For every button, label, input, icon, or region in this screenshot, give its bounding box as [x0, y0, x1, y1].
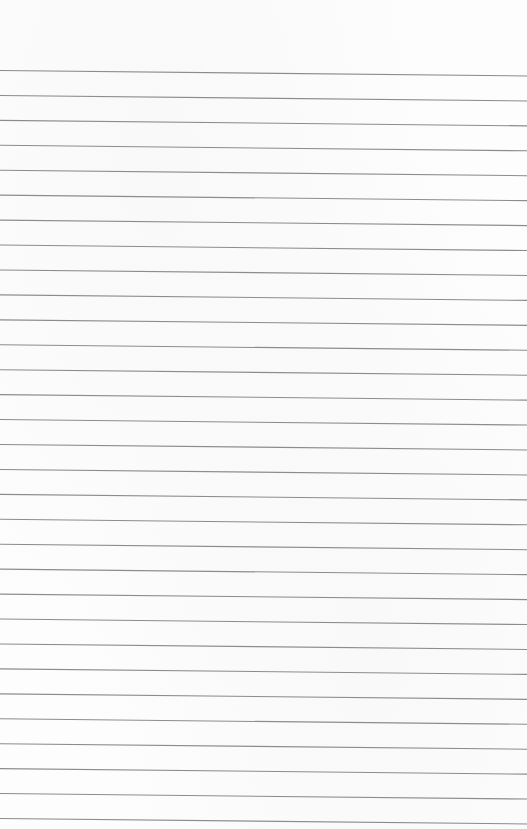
ruled-line — [0, 320, 527, 326]
ruled-line — [0, 95, 527, 101]
ruled-line — [0, 669, 527, 675]
ruled-line — [0, 120, 527, 126]
ruled-line — [0, 694, 527, 700]
ruled-line — [0, 245, 527, 251]
ruled-line — [0, 420, 527, 426]
ruled-line — [0, 644, 527, 650]
ruled-line — [0, 370, 527, 376]
ruled-line — [0, 544, 527, 550]
ruled-line — [0, 295, 527, 301]
ruled-line — [0, 170, 527, 176]
ruled-line — [0, 494, 527, 500]
ruled-line — [0, 469, 527, 475]
lined-paper-page — [0, 0, 527, 829]
ruled-line — [0, 195, 527, 201]
ruled-line — [0, 569, 527, 575]
ruled-line — [0, 619, 527, 625]
ruled-line — [0, 71, 527, 77]
ruled-line — [0, 395, 527, 401]
ruled-line — [0, 220, 527, 226]
ruled-lines — [0, 0, 527, 829]
ruled-line — [0, 744, 527, 750]
ruled-line — [0, 794, 527, 800]
ruled-line — [0, 594, 527, 600]
ruled-line — [0, 719, 527, 725]
ruled-line — [0, 445, 527, 451]
ruled-line — [0, 145, 527, 151]
ruled-line — [0, 769, 527, 775]
ruled-line — [0, 270, 527, 276]
ruled-line — [0, 819, 527, 825]
ruled-line — [0, 519, 527, 525]
ruled-line — [0, 345, 527, 351]
